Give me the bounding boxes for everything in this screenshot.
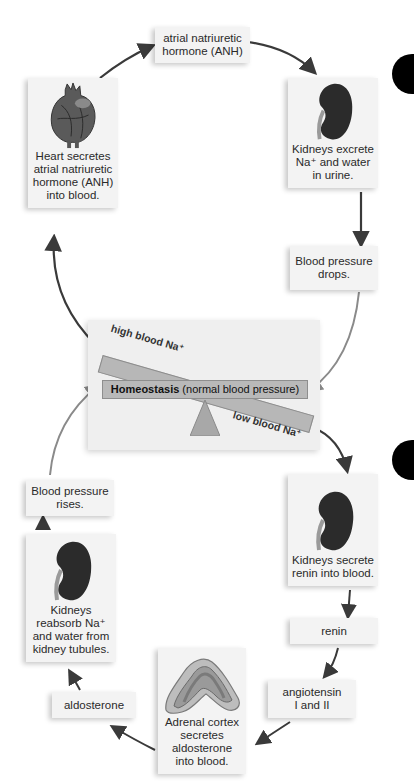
kidneys-excrete-label: Kidneys excrete Na⁺ and water in urine.: [292, 143, 374, 182]
adrenal-gland-icon: [162, 654, 242, 716]
bp-rises-box: Blood pressure rises.: [26, 480, 114, 516]
arrow-angiotensin-to-adrenal: [258, 722, 290, 743]
renin-label: renin: [321, 625, 347, 638]
arrow-adrenal-to-aldosterone: [113, 727, 155, 750]
kidneys-reabsorb-box: Kidneys reabsorb Na⁺ and water from kidn…: [26, 534, 116, 662]
kidney-icon: [49, 540, 93, 604]
arrow-anh-to-kidneys: [248, 42, 314, 72]
aldosterone-label: aldosterone: [64, 699, 124, 712]
angiotensin-box: angiotensin I and II: [268, 680, 356, 718]
anh-box: atrial natriuretic hormone (ANH): [155, 27, 250, 63]
heart-box: Heart secretes atrial natriuretic hormon…: [28, 78, 118, 208]
bp-drops-box: Blood pressure drops.: [290, 246, 378, 290]
adrenal-label: Adrenal cortex secretes aldosterone into…: [165, 716, 239, 768]
kidneys-excrete-box: Kidneys excrete Na⁺ and water in urine.: [288, 78, 378, 188]
arrow-aldosterone-to-reabsorb: [70, 672, 80, 690]
aldosterone-box: aldosterone: [52, 692, 136, 718]
angiotensin-label: angiotensin I and II: [283, 686, 342, 712]
adrenal-box: Adrenal cortex secretes aldosterone into…: [158, 648, 246, 774]
homeostasis-bar: Homeostasis (normal blood pressure): [102, 380, 308, 399]
kidneys-secrete-label: Kidneys secrete renin into blood.: [292, 554, 374, 580]
bp-drops-label: Blood pressure drops.: [295, 255, 372, 281]
homeostasis-label: Homeostasis: [111, 383, 179, 395]
fulcrum-icon: [190, 400, 220, 436]
kidneys-reabsorb-label: Kidneys reabsorb Na⁺ and water from kidn…: [33, 604, 110, 656]
homeostasis-sublabel: (normal blood pressure): [179, 383, 299, 395]
heart-label: Heart secretes atrial natriuretic hormon…: [33, 150, 114, 202]
heart-icon: [43, 82, 103, 150]
kidney-icon: [311, 490, 355, 554]
kidney-icon: [311, 82, 355, 143]
arrow-kidneys-to-renin: [348, 590, 350, 616]
renin-box: renin: [290, 618, 378, 644]
anh-label: atrial natriuretic hormone (ANH): [162, 32, 243, 58]
kidneys-secrete-box: Kidneys secrete renin into blood.: [288, 474, 378, 586]
bp-rises-label: Blood pressure rises.: [31, 485, 108, 511]
arrow-heart-to-anh: [100, 46, 152, 78]
arrow-renin-to-angiotensin: [325, 648, 338, 676]
